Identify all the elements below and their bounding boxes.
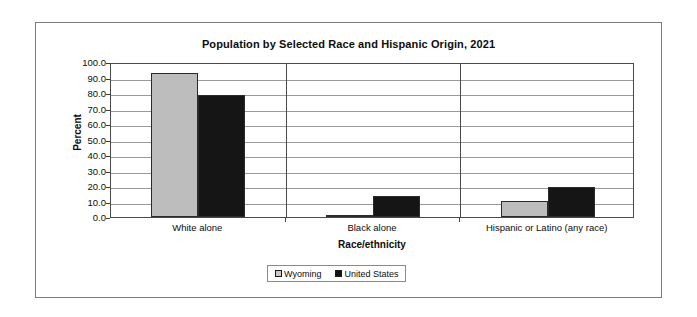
legend-swatch-icon — [275, 270, 282, 277]
bar — [548, 187, 595, 217]
category-separator — [460, 64, 461, 217]
legend-swatch-icon — [335, 270, 342, 277]
y-axis-tick-label: 30.0 — [66, 167, 106, 177]
y-axis-tick-label: 10.0 — [66, 198, 106, 208]
y-axis-tick-label: 40.0 — [66, 151, 106, 161]
y-axis-tick-label: 70.0 — [66, 105, 106, 115]
x-axis-category-label: White alone — [110, 222, 285, 233]
category-separator — [286, 64, 287, 217]
y-axis-tick-labels: 100.090.080.070.060.050.040.030.020.010.… — [60, 63, 106, 218]
y-axis-tick-label: 60.0 — [66, 120, 106, 130]
chart-legend: WyomingUnited States — [267, 265, 406, 282]
legend-item-label: Wyoming — [284, 269, 321, 279]
x-axis-title: Race/ethnicity — [110, 239, 634, 250]
chart-title: Population by Selected Race and Hispanic… — [36, 38, 661, 50]
y-axis-tick-mark — [106, 218, 110, 219]
chart-page: Population by Selected Race and Hispanic… — [0, 0, 697, 317]
bar — [198, 95, 245, 217]
y-axis-tick-label: 20.0 — [66, 182, 106, 192]
y-axis-tick-label: 90.0 — [66, 74, 106, 84]
plot-area — [110, 63, 634, 218]
legend-item-label: United States — [344, 269, 398, 279]
x-axis-category-label: Black alone — [285, 222, 460, 233]
figure-frame: Population by Selected Race and Hispanic… — [35, 22, 662, 298]
y-axis-tick-label: 100.0 — [66, 58, 106, 68]
y-axis-tick-label: 0.0 — [66, 213, 106, 223]
y-axis-tick-label: 80.0 — [66, 89, 106, 99]
x-axis-category-label: Hispanic or Latino (any race) — [459, 222, 634, 233]
bar — [326, 215, 373, 217]
bar — [373, 196, 420, 217]
legend-item: Wyoming — [275, 269, 321, 279]
y-axis-tick-label: 50.0 — [66, 136, 106, 146]
x-axis-category-labels: White aloneBlack aloneHispanic or Latino… — [110, 222, 634, 238]
bar — [151, 73, 198, 217]
legend-item: United States — [335, 269, 398, 279]
bar — [501, 201, 548, 217]
